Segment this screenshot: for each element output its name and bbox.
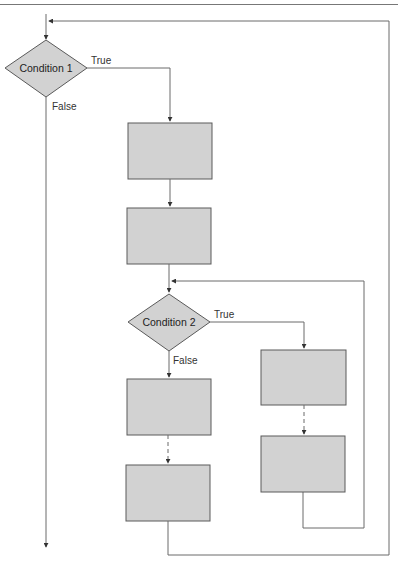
process-box-4 <box>126 465 210 521</box>
condition-2-label: Condition 2 <box>142 316 195 328</box>
process-box-5 <box>261 350 346 405</box>
process-box-3 <box>127 379 211 435</box>
decision-condition-2: Condition 2 <box>128 294 210 351</box>
condition-1-true-arrow <box>87 68 170 121</box>
decision-condition-1: Condition 1 <box>5 40 87 97</box>
flowchart-canvas: Condition 1 True False Condition 2 True … <box>0 0 398 561</box>
process-box-6 <box>261 436 345 492</box>
condition-1-false-label: False <box>52 101 77 112</box>
condition-2-true-label: True <box>214 309 235 320</box>
process-box-2 <box>127 208 211 264</box>
box-4-to-outer-loop-line <box>168 521 389 555</box>
condition-2-false-label: False <box>173 355 198 366</box>
condition-1-true-label: True <box>91 55 112 66</box>
condition-1-label: Condition 1 <box>19 62 72 74</box>
process-box-1 <box>128 123 212 179</box>
condition-2-true-arrow <box>210 322 304 348</box>
